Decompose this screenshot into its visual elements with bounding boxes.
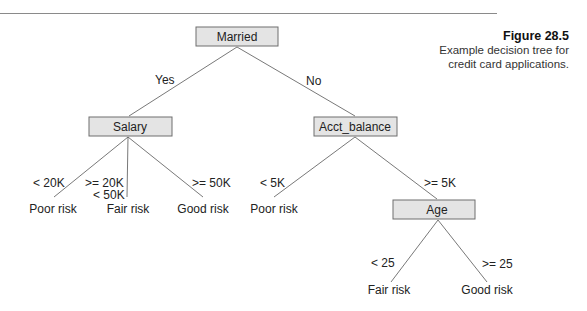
leaf-salary-good-risk: Good risk [177,202,229,216]
figure-label: Figure 28.5 [439,29,569,43]
caption-line-1: Example decision tree for [439,43,569,57]
leaf-age-fair-risk: Fair risk [368,283,412,297]
edge-label-age-lt25: < 25 [371,256,395,270]
leaf-age-good-risk: Good risk [461,283,513,297]
edge-married-yes [129,47,237,116]
leaf-salary-poor-risk: Poor risk [29,202,77,216]
edge-married-no [237,47,355,116]
node-acct-balance-label: Acct_balance [319,120,391,134]
edge-label-acct-lt5k: < 5K [260,176,285,190]
leaf-salary-fair-risk: Fair risk [107,202,151,216]
edge-label-salary-ge50k: >= 50K [192,176,231,190]
edge-label-salary-lt20k: < 20K [33,176,65,190]
node-married: Married [196,27,278,46]
figure-caption: Figure 28.5 Example decision tree for cr… [439,29,569,71]
node-married-label: Married [217,30,258,44]
edge-label-no: No [306,74,322,88]
node-salary: Salary [89,117,172,136]
edge-age-high [438,220,487,282]
edge-label-salary-lt50k: < 50K [93,188,125,202]
edge-age-low [391,220,438,282]
edge-acct-low [274,137,355,197]
edge-label-age-ge25: >= 25 [482,257,513,271]
node-age: Age [393,200,475,219]
node-acct-balance: Acct_balance [314,117,397,136]
leaf-acct-poor-risk: Poor risk [250,202,298,216]
edges [54,47,487,282]
edge-label-yes: Yes [155,73,175,87]
edge-salary-mid [127,137,128,197]
caption-line-2: credit card applications. [439,57,569,71]
node-age-label: Age [426,203,448,217]
edge-label-acct-ge5k: >= 5K [424,176,456,190]
node-salary-label: Salary [113,120,147,134]
